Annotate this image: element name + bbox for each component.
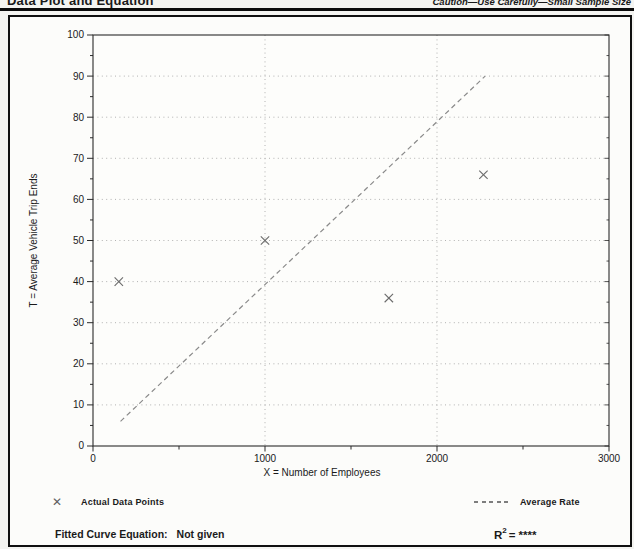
equation-value: Not given	[177, 528, 225, 540]
y-tick-label: 70	[73, 153, 85, 164]
r-value: ****	[518, 529, 536, 541]
y-tick-label: 0	[78, 440, 84, 451]
r-equals: =	[509, 529, 516, 541]
x-tick-label: 1000	[254, 453, 277, 464]
x-tick-label: 2000	[426, 453, 449, 464]
x-tick-label: 0	[90, 453, 96, 464]
legend-actual-label: Actual Data Points	[81, 497, 164, 507]
legend-actual-points: ✕ Actual Data Points	[50, 495, 164, 509]
y-tick-label: 100	[67, 29, 84, 40]
equation-label: Fitted Curve Equation:	[55, 528, 168, 540]
r-squared: R2=****	[494, 527, 536, 541]
plot-svg: 01020304050607080901000100020003000X = N…	[0, 0, 634, 549]
r-exponent: 2	[502, 526, 506, 535]
legend-average-rate: Average Rate	[474, 495, 580, 509]
y-tick-label: 90	[73, 71, 85, 82]
dashed-line-icon	[474, 501, 512, 503]
fitted-curve-equation: Fitted Curve Equation:Not given	[55, 528, 224, 540]
legend-rate-label: Average Rate	[520, 497, 580, 507]
y-tick-label: 50	[73, 235, 85, 246]
y-axis-title: T = Average Vehicle Trip Ends	[28, 174, 39, 308]
y-tick-label: 30	[73, 317, 85, 328]
y-tick-label: 60	[73, 194, 85, 205]
page: { "header": { "title": "Data Plot and Eq…	[0, 0, 634, 549]
x-axis-title: X = Number of Employees	[264, 467, 381, 478]
plot-area	[93, 35, 609, 446]
y-tick-label: 20	[73, 358, 85, 369]
y-tick-label: 10	[73, 399, 85, 410]
y-tick-label: 80	[73, 112, 85, 123]
x-marker-icon: ✕	[50, 496, 64, 508]
y-tick-label: 40	[73, 276, 85, 287]
x-tick-label: 3000	[598, 453, 621, 464]
